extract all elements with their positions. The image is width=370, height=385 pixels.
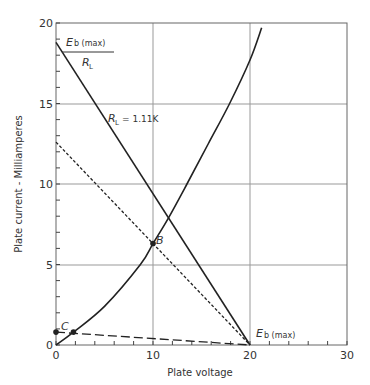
point-intersection <box>71 329 77 335</box>
rl-label-sub: L <box>115 119 119 127</box>
rl-denominator-sub: L <box>89 63 93 71</box>
y-tick-labels: 0 5 10 15 20 <box>39 17 53 352</box>
x-tick-10: 10 <box>146 349 160 362</box>
point-b-label: B <box>156 234 164 247</box>
point-b <box>150 241 156 247</box>
x-tick-labels: 0 10 20 30 <box>53 349 355 362</box>
point-c <box>53 329 59 335</box>
chart: 0 10 20 30 0 5 10 15 20 Plate voltage Pl… <box>0 0 370 385</box>
y-tick-5: 5 <box>46 259 53 272</box>
annotation-eb-max: E b (max) <box>256 327 295 340</box>
y-tick-20: 20 <box>39 17 53 30</box>
series-layer <box>56 28 262 345</box>
x-tick-20: 20 <box>243 349 257 362</box>
eb-max-label-sub: b (max) <box>264 331 295 340</box>
eb-max-numerator-sub: b (max) <box>74 39 105 48</box>
x-tick-0: 0 <box>53 349 60 362</box>
grid <box>56 23 347 345</box>
x-axis-label: Plate voltage <box>167 367 233 378</box>
annotation-rl-value: R L = 1.11K <box>108 112 159 127</box>
y-tick-0: 0 <box>46 339 53 352</box>
x-tick-30: 30 <box>340 349 354 362</box>
y-axis-label: Plate current - Milliamperes <box>13 115 24 253</box>
annotation-eb-over-rl: E b (max) R L <box>62 36 114 71</box>
point-c-label: C <box>61 320 69 333</box>
eb-max-numerator: E <box>66 36 73 49</box>
rl-value: = 1.11K <box>122 114 159 124</box>
y-tick-15: 15 <box>39 98 53 111</box>
eb-max-label: E <box>256 327 263 340</box>
y-tick-10: 10 <box>39 178 53 191</box>
series-characteristic-curve <box>56 28 262 345</box>
